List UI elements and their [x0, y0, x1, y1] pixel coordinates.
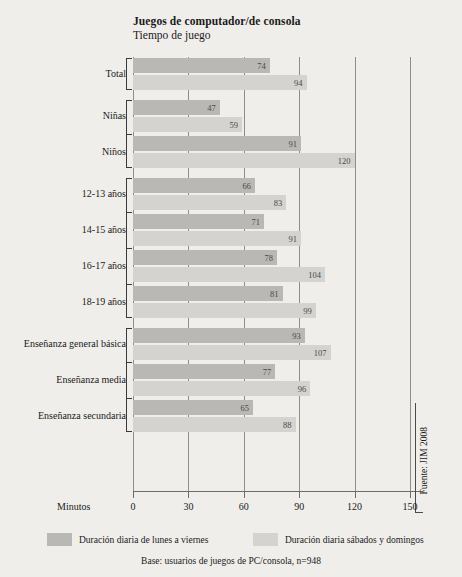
- category-label-8: Enseñanza media: [56, 374, 126, 385]
- x-tick-60: [244, 491, 245, 498]
- legend-swatch-weekday-icon: [47, 533, 72, 546]
- x-tick-label-150: 150: [390, 501, 430, 512]
- bar-weekend: 99: [133, 303, 316, 318]
- bar-weekday: 78: [133, 250, 277, 265]
- bar-fill: 74: [133, 58, 270, 73]
- bar-fill: 78: [133, 250, 277, 265]
- bar-weekend: 88: [133, 417, 296, 432]
- bar-weekend: 94: [133, 75, 307, 90]
- category-label-0: Total: [106, 68, 126, 79]
- x-axis-title: Minutos: [57, 501, 90, 512]
- bar-weekend: 107: [133, 345, 331, 360]
- category-label-5: 16-17 años: [82, 260, 126, 271]
- x-tick-label-90: 90: [279, 501, 319, 512]
- x-tick-label-120: 120: [335, 501, 375, 512]
- x-tick-120: [355, 491, 356, 498]
- bar-value-label: 91: [289, 234, 298, 243]
- chart-page: Juegos de computador/de consola Tiempo d…: [0, 0, 462, 577]
- chart-title: Juegos de computador/de consola: [133, 14, 301, 28]
- bar-weekend: 83: [133, 195, 286, 210]
- bar-fill: 91: [133, 136, 301, 151]
- bar-value-label: 120: [338, 156, 351, 165]
- bar-fill: 104: [133, 267, 325, 282]
- category-label-4: 14-15 años: [82, 224, 126, 235]
- bar-fill: 59: [133, 117, 242, 132]
- bar-fill: 99: [133, 303, 316, 318]
- bar-weekday: 77: [133, 364, 275, 379]
- legend-item-weekday: Duración diaria de lunes a viernes: [47, 533, 209, 546]
- bar-fill: 91: [133, 231, 301, 246]
- bar-weekend: 59: [133, 117, 242, 132]
- bar-value-label: 66: [242, 181, 251, 190]
- bar-weekend: 96: [133, 381, 310, 396]
- source-label: Fuente: JIM 2008: [419, 427, 429, 495]
- bar-value-label: 74: [257, 61, 266, 70]
- x-tick-90: [299, 491, 300, 498]
- bar-weekday: 81: [133, 286, 283, 301]
- bar-weekday: 91: [133, 136, 301, 151]
- category-label-6: 18-19 años: [82, 296, 126, 307]
- axis-tick-5: [126, 248, 132, 249]
- base-note: Base: usuarios de juegos de PC/consola, …: [0, 556, 462, 566]
- bar-fill: 107: [133, 345, 331, 360]
- bar-weekend: 91: [133, 231, 301, 246]
- source-rule-foot: [415, 512, 423, 513]
- bar-value-label: 65: [241, 403, 250, 412]
- axis-tick-4: [126, 212, 132, 213]
- bar-weekday: 65: [133, 400, 253, 415]
- category-label-3: 12-13 años: [82, 188, 126, 199]
- axis-tick-9: [126, 398, 132, 399]
- category-label-9: Enseñanza secundaria: [38, 410, 126, 421]
- bar-fill: 71: [133, 214, 264, 229]
- x-tick-0: [133, 491, 134, 498]
- bar-weekday: 74: [133, 58, 270, 73]
- bar-value-label: 81: [270, 289, 279, 298]
- bar-value-label: 59: [229, 120, 238, 129]
- bar-value-label: 71: [252, 217, 261, 226]
- chart-legend: Duración diaria de lunes a viernes Durac…: [0, 533, 462, 549]
- bar-weekday: 66: [133, 178, 255, 193]
- bar-value-label: 91: [289, 139, 298, 148]
- bar-fill: 83: [133, 195, 286, 210]
- gridline-120: [355, 57, 356, 491]
- bar-weekend: 104: [133, 267, 325, 282]
- legend-label-weekday: Duración diaria de lunes a viernes: [79, 535, 209, 545]
- bar-value-label: 88: [283, 420, 292, 429]
- category-label-7: Enseñanza general básica: [24, 338, 126, 349]
- bar-fill: 94: [133, 75, 307, 90]
- bar-fill: 88: [133, 417, 296, 432]
- bar-fill: 81: [133, 286, 283, 301]
- category-label-2: Niños: [102, 146, 126, 157]
- x-tick-label-0: 0: [113, 501, 153, 512]
- legend-item-weekend: Duración diaria sábados y domingos: [253, 533, 424, 546]
- bar-value-label: 93: [292, 331, 301, 340]
- axis-tick-6: [126, 284, 132, 285]
- category-label-1: Niñas: [103, 110, 126, 121]
- x-tick-150: [410, 491, 411, 498]
- bar-fill: 93: [133, 328, 305, 343]
- gridline-150: [410, 57, 411, 491]
- bar-weekday: 71: [133, 214, 264, 229]
- bar-fill: 66: [133, 178, 255, 193]
- bar-weekday: 93: [133, 328, 305, 343]
- bar-value-label: 47: [207, 103, 216, 112]
- axis-bracket-group-0: [126, 58, 132, 90]
- category-label-column: [0, 0, 126, 577]
- axis-bracket-group-3: [126, 328, 132, 432]
- bar-value-label: 78: [265, 253, 274, 262]
- chart-title-block: Juegos de computador/de consola Tiempo d…: [133, 14, 301, 42]
- bar-weekend: 120: [133, 153, 355, 168]
- legend-swatch-weekend-icon: [253, 533, 278, 546]
- source-rule: [415, 403, 416, 513]
- bar-value-label: 104: [308, 270, 321, 279]
- chart-subtitle: Tiempo de juego: [133, 28, 301, 42]
- bar-fill: 120: [133, 153, 355, 168]
- bar-fill: 77: [133, 364, 275, 379]
- bar-value-label: 99: [303, 306, 312, 315]
- bar-fill: 96: [133, 381, 310, 396]
- bar-fill: 65: [133, 400, 253, 415]
- bar-value-label: 107: [314, 348, 327, 357]
- x-tick-label-30: 30: [168, 501, 208, 512]
- bar-value-label: 83: [274, 198, 283, 207]
- bar-value-label: 96: [298, 384, 307, 393]
